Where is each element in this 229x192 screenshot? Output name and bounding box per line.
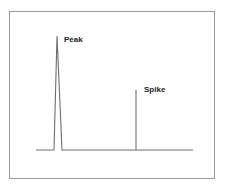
spike-label: Spike xyxy=(144,85,166,94)
peak-label: Peak xyxy=(64,35,83,44)
signal-line xyxy=(36,36,193,150)
chart-canvas: Peak Spike xyxy=(0,0,229,192)
chart-frame xyxy=(10,12,215,179)
